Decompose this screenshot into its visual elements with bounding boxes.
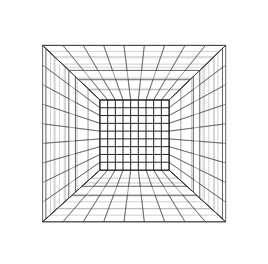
back-wall-grid [100,100,169,170]
perspective-room-canvas [0,0,268,264]
perspective-scene-svg [0,0,268,264]
back-wall-surface [100,100,169,170]
